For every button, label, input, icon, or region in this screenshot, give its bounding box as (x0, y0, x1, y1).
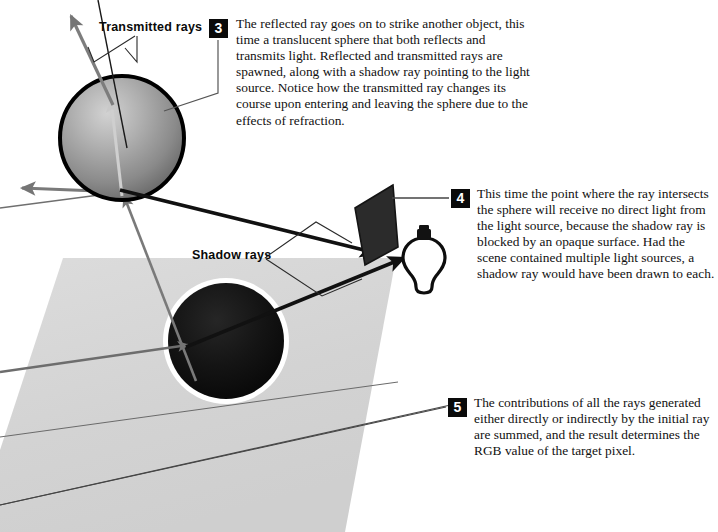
opaque-quad-surface (355, 185, 398, 265)
light-bulb (403, 225, 445, 293)
bulb-base-cap (419, 225, 429, 230)
callout-badge-5: 5 (448, 398, 467, 417)
callout-text-3: The reflected ray goes on to strike anot… (236, 16, 536, 129)
shadow-ray-blocked-by-surface (120, 190, 376, 253)
bulb-base (417, 229, 431, 240)
translucent-sphere (60, 76, 184, 200)
figure-canvas: Transmitted rays Shadow rays 3 The refle… (0, 0, 718, 532)
leader-line-transmitted-b (125, 36, 137, 62)
leader-line-shadow-a (266, 222, 352, 257)
callout-text-5: The contributions of all the rays genera… (474, 395, 712, 459)
leader-line-transmitted-a (88, 36, 135, 62)
opaque-sphere (168, 283, 284, 399)
label-shadow-rays: Shadow rays (192, 248, 271, 262)
callout-badge-4: 4 (451, 189, 470, 208)
callout-badge-3: 3 (209, 19, 228, 38)
label-transmitted-rays: Transmitted rays (99, 20, 202, 34)
callout-text-4: This time the point where the ray inters… (477, 186, 717, 283)
